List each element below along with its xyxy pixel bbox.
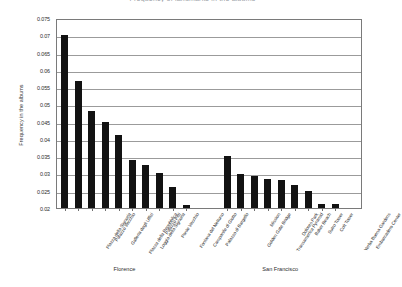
- group-label-florence: Florence: [94, 266, 154, 272]
- bar[interactable]: [305, 191, 312, 208]
- y-tick-label: 0.06: [40, 68, 50, 74]
- y-tick-label: 0.04: [40, 137, 50, 143]
- bar[interactable]: [88, 111, 95, 208]
- y-tick-label: 0.02: [40, 206, 50, 212]
- bar[interactable]: [61, 35, 68, 208]
- bar[interactable]: [75, 81, 82, 208]
- y-axis-tick-labels: 0.020.0250.030.0350.040.0450.050.0550.06…: [0, 19, 53, 209]
- y-tick-label: 0.025: [37, 189, 50, 195]
- bar[interactable]: [115, 135, 122, 208]
- bar[interactable]: [224, 156, 231, 208]
- y-tick-label: 0.07: [40, 33, 50, 39]
- category-axis-labels: Piazza della SignoriaPalazzo VecchioGall…: [56, 210, 362, 262]
- bar[interactable]: [237, 174, 244, 208]
- y-tick-label: 0.045: [37, 120, 50, 126]
- y-tick-label: 0.05: [40, 102, 50, 108]
- y-tick-label: 0.035: [37, 154, 50, 160]
- bar[interactable]: [291, 185, 298, 208]
- chart-title: Frequency of landmarks in the albums: [0, 0, 385, 2]
- y-tick-label: 0.03: [40, 171, 50, 177]
- group-label-san-francisco: San Francisco: [250, 266, 310, 272]
- bar[interactable]: [129, 160, 136, 208]
- bar-series: [57, 20, 361, 208]
- bar[interactable]: [264, 179, 271, 208]
- y-tick-label: 0.055: [37, 85, 50, 91]
- bar[interactable]: [142, 165, 149, 208]
- bar[interactable]: [156, 173, 163, 208]
- plot-area: [56, 19, 362, 209]
- y-tick-label: 0.075: [37, 16, 50, 22]
- bar[interactable]: [102, 122, 109, 208]
- bar[interactable]: [278, 180, 285, 208]
- bar[interactable]: [251, 176, 258, 208]
- bar[interactable]: [169, 187, 176, 208]
- y-tick-label: 0.065: [37, 51, 50, 57]
